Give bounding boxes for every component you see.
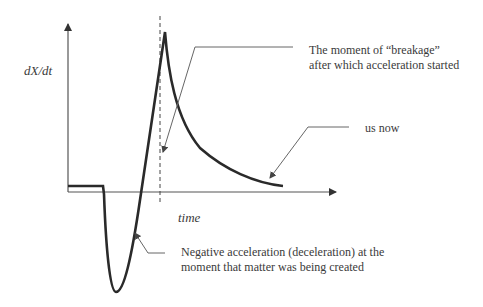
negative-acceleration-annotation: Negative acceleration (deceleration) at … — [181, 245, 384, 275]
breakage-annotation: The moment of “breakage” after which acc… — [309, 43, 459, 73]
breakage-leader — [163, 47, 293, 152]
diagram-canvas: dX/dt time The moment of “breakage” afte… — [0, 0, 483, 307]
negative-acceleration-leader — [135, 233, 165, 253]
breakage-annotation-line-2: after which acceleration started — [309, 58, 459, 73]
us-now-annotation: us now — [365, 121, 399, 136]
x-axis-label: time — [178, 210, 200, 225]
negative-acceleration-line-2: moment that matter was being created — [181, 260, 384, 275]
negative-acceleration-line-1: Negative acceleration (deceleration) at … — [181, 245, 384, 260]
us-now-leader — [270, 127, 349, 178]
y-axis-label: dX/dt — [24, 63, 52, 78]
breakage-annotation-line-1: The moment of “breakage” — [309, 43, 459, 58]
